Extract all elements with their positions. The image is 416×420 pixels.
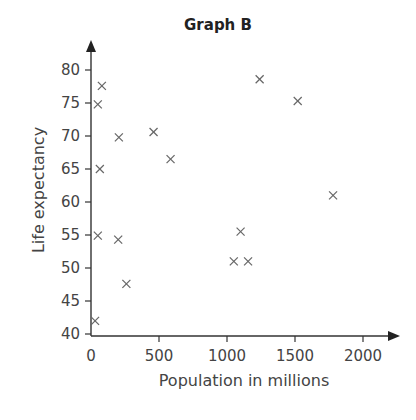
y-axis [86, 40, 96, 336]
y-tick-label: 55 [61, 226, 80, 244]
x-marker-icon [96, 165, 104, 173]
x-tick-label: 1500 [276, 347, 314, 365]
y-axis-arrow-icon [86, 40, 96, 52]
x-marker-icon [114, 236, 122, 244]
x-marker-icon [230, 257, 238, 265]
x-marker-icon [91, 317, 99, 325]
y-tick-label: 70 [61, 127, 80, 145]
x-marker-icon [98, 82, 106, 90]
y-ticks: 404550556065707580 [61, 61, 91, 343]
x-marker-icon [294, 97, 302, 105]
x-marker-icon [94, 232, 102, 240]
y-tick-label: 80 [61, 61, 80, 79]
y-tick-label: 60 [61, 193, 80, 211]
chart-title: Graph B [184, 16, 252, 34]
x-marker-icon [122, 280, 130, 288]
y-tick-label: 50 [61, 259, 80, 277]
x-tick-label: 500 [145, 347, 174, 365]
x-tick-label: 2000 [344, 347, 382, 365]
y-axis-label: Life expectancy [29, 127, 48, 253]
y-tick-label: 75 [61, 94, 80, 112]
x-tick-label: 0 [86, 347, 96, 365]
x-marker-icon [167, 155, 175, 163]
y-tick-label: 40 [61, 325, 80, 343]
x-marker-icon [94, 100, 102, 108]
x-ticks: 0500100015002000 [86, 336, 382, 365]
x-marker-icon [256, 75, 264, 83]
y-tick-label: 45 [61, 292, 80, 310]
scatter-chart: Graph B 404550556065707580 0500100015002… [0, 0, 416, 420]
data-points [91, 75, 337, 325]
x-marker-icon [244, 257, 252, 265]
x-marker-icon [115, 133, 123, 141]
x-tick-label: 1000 [208, 347, 246, 365]
y-tick-label: 65 [61, 160, 80, 178]
x-marker-icon [150, 128, 158, 136]
x-marker-icon [237, 228, 245, 236]
x-axis-label: Population in millions [159, 371, 329, 390]
x-axis [91, 331, 400, 341]
x-marker-icon [329, 191, 337, 199]
x-axis-arrow-icon [388, 331, 400, 341]
